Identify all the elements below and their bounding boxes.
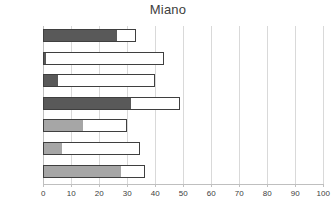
bar-fill-segment [44,30,117,41]
bar-row: Goal 3 [43,26,323,49]
x-tick-0 [43,184,44,187]
bar-row: Goal 11 [43,116,323,139]
x-tick-40 [155,184,156,187]
x-tick-10 [71,184,72,187]
bar-goal-3 [43,29,135,42]
x-tick-label-40: 40 [140,189,170,199]
bar-goal-13 [43,165,145,178]
x-tick-label-20: 20 [84,189,114,199]
plot-area: Goal 3Goal 4Goal 8Goal 10Goal 11Goal 12G… [43,26,323,184]
x-tick-label-100: 100 [308,189,336,199]
x-tick-label-30: 30 [112,189,142,199]
x-tick-50 [183,184,184,187]
x-tick-label-10: 10 [56,189,86,199]
bar-row: Goal 4 [43,49,323,72]
bar-goal-8 [43,74,155,87]
x-tick-60 [211,184,212,187]
x-tick-30 [127,184,128,187]
bar-goal-11 [43,119,127,132]
bar-chart: Miano Goal 3Goal 4Goal 8Goal 10Goal 11Go… [0,0,336,208]
x-tick-70 [239,184,240,187]
bar-fill-segment [44,166,121,177]
bar-rows: Goal 3Goal 4Goal 8Goal 10Goal 11Goal 12G… [43,26,323,184]
bar-row: Goal 10 [43,94,323,117]
x-tick-80 [267,184,268,187]
x-tick-100 [323,184,324,187]
bar-goal-4 [43,52,163,65]
bar-goal-12 [43,142,140,155]
bar-goal-10 [43,97,180,110]
bar-row: Goal 12 [43,139,323,162]
bar-fill-segment [44,75,58,86]
x-tick-20 [99,184,100,187]
x-tick-label-90: 90 [280,189,310,199]
bar-fill-segment [44,98,131,109]
x-tick-label-80: 80 [252,189,282,199]
bar-fill-segment [44,53,45,64]
x-tick-label-60: 60 [196,189,226,199]
chart-title: Miano [0,2,336,18]
x-tick-90 [295,184,296,187]
x-tick-label-70: 70 [224,189,254,199]
x-tick-label-50: 50 [168,189,198,199]
bar-row: Goal 8 [43,71,323,94]
bar-fill-segment [44,143,62,154]
x-tick-label-0: 0 [28,189,58,199]
bar-fill-segment [44,120,83,131]
bar-row: Goal 13 [43,161,323,184]
gridline-100 [323,26,324,184]
